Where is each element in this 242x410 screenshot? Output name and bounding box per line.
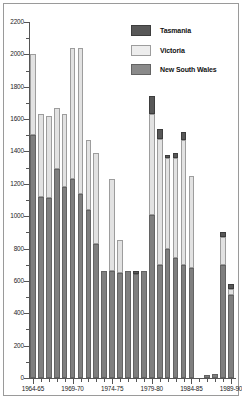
y-axis-tick-label: 2000 bbox=[2, 51, 24, 57]
legend-swatch-tasmania-icon bbox=[131, 25, 151, 36]
bar-segment-tas bbox=[149, 96, 155, 114]
bar-segment-nsw bbox=[173, 258, 179, 378]
bar-segment-tas bbox=[220, 232, 226, 237]
chart-legend: Tasmania Victoria New South Wales bbox=[131, 25, 231, 84]
bar-segment-vic bbox=[165, 158, 171, 249]
x-axis-tick bbox=[88, 379, 89, 382]
y-axis-tick-label: 0 bbox=[2, 375, 24, 381]
bar-segment-nsw bbox=[212, 374, 218, 378]
bar-segment-nsw bbox=[141, 271, 147, 378]
bar-segment-vic bbox=[86, 140, 92, 210]
x-axis-line bbox=[29, 378, 236, 379]
y-axis-tick-label: 200 bbox=[2, 343, 24, 349]
bar-segment-tas bbox=[157, 129, 163, 139]
bar-segment-nsw bbox=[78, 194, 84, 378]
x-axis-tick bbox=[49, 379, 50, 382]
x-axis-tick bbox=[96, 379, 97, 382]
x-axis-tick bbox=[231, 379, 232, 384]
bar-segment-nsw bbox=[86, 210, 92, 378]
bar-segment-nsw bbox=[165, 249, 171, 378]
bar-segment-nsw bbox=[189, 268, 195, 378]
y-axis-tick-label: 800 bbox=[2, 246, 24, 252]
x-axis-tick bbox=[199, 379, 200, 382]
x-axis-tick bbox=[57, 379, 58, 382]
y-axis-tick-label: 1800 bbox=[2, 84, 24, 90]
bar-segment-nsw bbox=[220, 265, 226, 378]
y-axis-tick-label: 1400 bbox=[2, 148, 24, 154]
bar-segment-tas bbox=[133, 271, 139, 274]
legend-label-tasmania: Tasmania bbox=[160, 27, 191, 34]
bar-segment-nsw bbox=[181, 265, 187, 378]
bar-segment-nsw bbox=[62, 187, 68, 378]
x-axis-tick bbox=[112, 379, 113, 384]
bar-segment-nsw bbox=[93, 244, 99, 378]
bar-1968-69[interactable] bbox=[62, 22, 68, 378]
legend-label-victoria: Victoria bbox=[160, 47, 185, 54]
bar-1972-73[interactable] bbox=[93, 22, 99, 378]
bar-segment-nsw bbox=[133, 274, 139, 378]
bar-segment-vic bbox=[220, 237, 226, 265]
legend-item-tasmania[interactable]: Tasmania bbox=[131, 25, 231, 36]
bar-segment-vic bbox=[46, 116, 52, 199]
bar-1969-70[interactable] bbox=[70, 22, 76, 378]
bar-segment-vic bbox=[149, 114, 155, 214]
x-axis-tick-label: 1974-75 bbox=[90, 385, 134, 393]
legend-swatch-new-south-wales-icon bbox=[131, 64, 151, 75]
bar-segment-nsw bbox=[38, 197, 44, 378]
bar-1964-65[interactable] bbox=[30, 22, 36, 378]
bar-segment-vic bbox=[117, 240, 123, 272]
x-axis-tick-label: 1984-85 bbox=[169, 385, 213, 393]
bar-1973-74[interactable] bbox=[101, 22, 107, 378]
bar-1967-68[interactable] bbox=[54, 22, 60, 378]
x-axis-tick bbox=[128, 379, 129, 382]
bar-1971-72[interactable] bbox=[86, 22, 92, 378]
y-axis-tick-label: 1000 bbox=[2, 213, 24, 219]
x-axis-tick bbox=[152, 379, 153, 384]
chart-figure: 0200400600800100012001400160018002000220… bbox=[0, 0, 242, 410]
bar-segment-tas bbox=[228, 284, 234, 289]
bar-1966-67[interactable] bbox=[46, 22, 52, 378]
x-axis-tick-label: 1964-65 bbox=[11, 385, 55, 393]
x-axis-tick bbox=[73, 379, 74, 384]
y-axis-tick-label: 400 bbox=[2, 310, 24, 316]
bar-segment-nsw bbox=[109, 271, 115, 378]
bar-segment-nsw bbox=[54, 169, 60, 378]
bar-segment-tas bbox=[165, 155, 171, 158]
x-axis-tick bbox=[65, 379, 66, 382]
bar-segment-nsw bbox=[157, 265, 163, 378]
bar-segment-tas bbox=[173, 153, 179, 158]
bar-segment-vic bbox=[70, 48, 76, 179]
y-axis-tick-label: 1600 bbox=[2, 116, 24, 122]
legend-item-new-south-wales[interactable]: New South Wales bbox=[131, 64, 231, 75]
x-axis-tick bbox=[120, 379, 121, 382]
bar-segment-nsw bbox=[101, 271, 107, 378]
y-axis-tick-labels: 0200400600800100012001400160018002000220… bbox=[0, 0, 24, 410]
bar-segment-nsw bbox=[125, 271, 131, 378]
bar-segment-vic bbox=[78, 48, 84, 194]
bar-segment-vic bbox=[189, 176, 195, 268]
bar-segment-tas bbox=[181, 132, 187, 140]
bar-segment-vic bbox=[173, 158, 179, 258]
x-axis-tick bbox=[191, 379, 192, 384]
bar-segment-vic bbox=[157, 139, 163, 265]
y-axis-tick-label: 1200 bbox=[2, 181, 24, 187]
x-axis-tick bbox=[215, 379, 216, 382]
bar-1975-76[interactable] bbox=[117, 22, 123, 378]
y-axis-tick bbox=[24, 378, 30, 379]
x-axis-tick bbox=[160, 379, 161, 382]
x-axis-tick bbox=[168, 379, 169, 382]
x-axis-tick bbox=[81, 379, 82, 382]
x-axis-tick bbox=[33, 379, 34, 384]
bar-1965-66[interactable] bbox=[38, 22, 44, 378]
x-axis-tick bbox=[207, 379, 208, 382]
legend-item-victoria[interactable]: Victoria bbox=[131, 45, 231, 56]
x-axis-tick-label: 1969-70 bbox=[51, 385, 95, 393]
x-axis-tick bbox=[104, 379, 105, 382]
bar-segment-vic bbox=[30, 54, 36, 135]
bar-1970-71[interactable] bbox=[78, 22, 84, 378]
bar-segment-vic bbox=[38, 114, 44, 197]
x-axis-tick bbox=[41, 379, 42, 382]
bar-segment-vic bbox=[62, 114, 68, 187]
bar-1974-75[interactable] bbox=[109, 22, 115, 378]
x-axis-tick bbox=[223, 379, 224, 382]
